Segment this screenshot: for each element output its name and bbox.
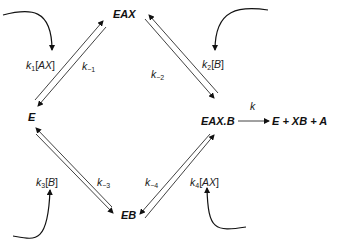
rate-k-minus2: k−2	[151, 68, 164, 81]
arrow-eb-to-e	[36, 128, 112, 207]
curve-arrow-k3	[13, 190, 50, 238]
curve-arrow-k4	[207, 188, 246, 229]
rate-k-minus1: k−1	[82, 60, 95, 73]
rate-k2-b: k2[B]	[202, 58, 224, 71]
curve-arrow-k1	[3, 12, 52, 50]
rate-k1-ax: k1[AX]	[26, 59, 55, 72]
node-products: E + XB + A	[272, 115, 327, 127]
node-e: E	[28, 111, 35, 123]
node-eaxb: EAX.B	[201, 115, 235, 127]
rate-k-minus4: k−4	[145, 176, 158, 189]
rate-k4-ax: k4[AX]	[190, 176, 219, 189]
arrow-e-to-eb	[36, 134, 113, 213]
arrow-eaxb-to-eax	[149, 15, 218, 93]
node-eax: EAX	[113, 8, 136, 20]
rate-k-minus3: k−3	[97, 176, 110, 189]
rate-k: k	[250, 100, 255, 112]
rate-k3-b: k3[B]	[36, 176, 58, 189]
arrow-eaxb-to-eb	[140, 134, 210, 214]
curve-arrow-k2	[215, 9, 268, 50]
node-eb: EB	[121, 209, 136, 221]
